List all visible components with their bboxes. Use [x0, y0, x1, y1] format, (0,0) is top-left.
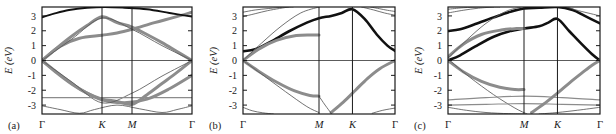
- band-curve-thin-bottom-c1: [448, 107, 524, 114]
- ytick-label--1: -1: [28, 70, 36, 81]
- band-curve-lower-thin-dip: [42, 105, 192, 113]
- xtick-label-M-1: M: [314, 119, 325, 130]
- ytick-label-3: 3: [437, 11, 442, 22]
- ytick-label-2: 2: [437, 25, 442, 36]
- panel-a-plot: 3210-1-2-3E (eV)ΓKMΓ(a): [0, 0, 205, 134]
- panel-tag-a: (a): [8, 120, 20, 132]
- ytick-label-2: 2: [31, 25, 36, 36]
- y-axis-label: E (eV): [3, 46, 15, 75]
- panel-b: 3210-1-2-3E (eV)ΓMKΓ(b): [205, 0, 410, 134]
- band-curve-gray-flat-1p7: [243, 35, 319, 61]
- band-curve-gray-descend-c: [448, 61, 524, 90]
- ytick-label-3: 3: [232, 11, 237, 22]
- ytick-label--2: -2: [28, 85, 36, 96]
- ytick-label--2: -2: [229, 85, 237, 96]
- band-curve-flat-band-gray: [42, 12, 192, 60]
- band-curve-steep-thin-1: [42, 18, 192, 61]
- panel-a: 3210-1-2-3E (eV)ΓKMΓ(a): [0, 0, 205, 134]
- y-axis-label: E (eV): [208, 46, 220, 75]
- ytick-label--3: -3: [434, 100, 442, 111]
- band-curve-steep-thin-2: [42, 61, 192, 104]
- band-curve-gray-rise-right: [331, 61, 395, 113]
- xtick-label-Γ-3: Γ: [597, 119, 603, 130]
- panel-tag-c: (c): [414, 120, 426, 132]
- xtick-label-Γ-0: Γ: [445, 119, 451, 130]
- band-curve-thin-bottom-c2: [539, 107, 600, 114]
- ytick-label--1: -1: [229, 70, 237, 81]
- band-curve-upper-dark: [42, 7, 192, 17]
- ytick-label--1: -1: [434, 70, 442, 81]
- xtick-label-M-1: M: [519, 119, 530, 130]
- ytick-label--3: -3: [28, 100, 36, 111]
- ytick-label-2: 2: [232, 25, 237, 36]
- ytick-label-1: 1: [437, 40, 442, 51]
- ytick-label-1: 1: [31, 40, 36, 51]
- panel-tag-b: (b): [209, 120, 222, 132]
- band-structure-figure: 3210-1-2-3E (eV)ΓKMΓ(a) 3210-1-2-3E (eV)…: [0, 0, 616, 134]
- band-curve-thin-steep-down-c: [448, 59, 527, 114]
- xtick-label-Γ-3: Γ: [189, 119, 195, 130]
- panel-b-plot: 3210-1-2-3E (eV)ΓMKΓ(b): [205, 0, 410, 134]
- ytick-label-3: 3: [31, 11, 36, 22]
- band-curve-thin-bottom-left: [243, 107, 273, 114]
- ytick-label-0: 0: [232, 55, 237, 66]
- ytick-label-1: 1: [232, 40, 237, 51]
- ytick-label--3: -3: [229, 100, 237, 111]
- band-curve-mid-gray-cross: [42, 61, 192, 103]
- panel-c-plot: 3210-1-2-3E (eV)ΓMKΓ(c): [410, 0, 616, 134]
- xtick-label-K-2: K: [553, 119, 562, 130]
- ytick-label-0: 0: [437, 55, 442, 66]
- xtick-label-K-1: K: [97, 119, 106, 130]
- band-curve-thin-arc-topright2: [371, 7, 395, 11]
- y-axis-label: E (eV): [413, 46, 425, 75]
- band-curve-thin-top-arc-c1: [448, 7, 494, 13]
- ytick-label--2: -2: [434, 85, 442, 96]
- xtick-label-K-2: K: [348, 119, 357, 130]
- band-curve-thin-bottom-right: [372, 108, 395, 113]
- band-curve-dirac-upper-gray: [42, 17, 192, 61]
- band-curve-gray-descend: [243, 61, 319, 97]
- xtick-label-Γ-0: Γ: [240, 119, 246, 130]
- plot-area: [42, 7, 192, 113]
- xtick-label-M-2: M: [127, 119, 138, 130]
- ytick-label-0: 0: [31, 55, 36, 66]
- band-curve-thin-dip-mid: [319, 96, 331, 113]
- xtick-label-Γ-3: Γ: [392, 119, 398, 130]
- xtick-label-Γ-0: Γ: [39, 119, 45, 130]
- panel-c: 3210-1-2-3E (eV)ΓMKΓ(c): [410, 0, 616, 134]
- band-curve-gray-flat-2: [448, 28, 524, 56]
